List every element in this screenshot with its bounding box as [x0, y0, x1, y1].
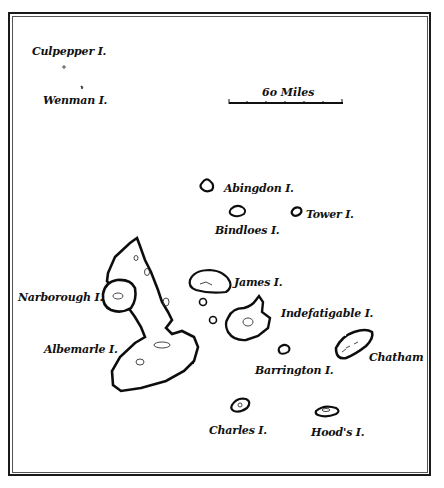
scale-bar — [229, 99, 343, 104]
label-tower: Tower I. — [306, 208, 354, 221]
label-barrington: Barrington I. — [255, 364, 334, 377]
island-map — [0, 0, 444, 488]
culpepper-island — [63, 66, 65, 68]
label-chatham: Chatham — [369, 351, 423, 364]
scale-label: 6o Miles — [262, 86, 315, 99]
label-albemarle: Albemarle I. — [44, 343, 118, 356]
label-wenman: Wenman I. — [43, 94, 107, 107]
label-hoods: Hood's I. — [311, 426, 364, 439]
label-charles: Charles I. — [209, 424, 267, 437]
abingdon-island — [201, 179, 214, 191]
wenman-island — [81, 86, 83, 89]
label-abingdon: Abingdon I. — [224, 182, 294, 195]
albemarle-island — [107, 238, 198, 391]
islet-1 — [200, 299, 207, 306]
tower-island — [292, 207, 302, 215]
bindloes-island — [230, 206, 245, 216]
islet-2 — [210, 317, 217, 324]
james-island — [190, 270, 231, 293]
barrington-island — [279, 345, 290, 354]
narborough-island — [103, 280, 136, 312]
label-culpepper: Culpepper I. — [32, 45, 106, 58]
label-narborough: Narborough I. — [18, 291, 103, 304]
label-indefatigable: Indefatigable I. — [281, 307, 373, 320]
label-bindloes: Bindloes I. — [215, 224, 279, 237]
label-james: James I. — [234, 276, 282, 289]
charles-island — [231, 399, 249, 412]
